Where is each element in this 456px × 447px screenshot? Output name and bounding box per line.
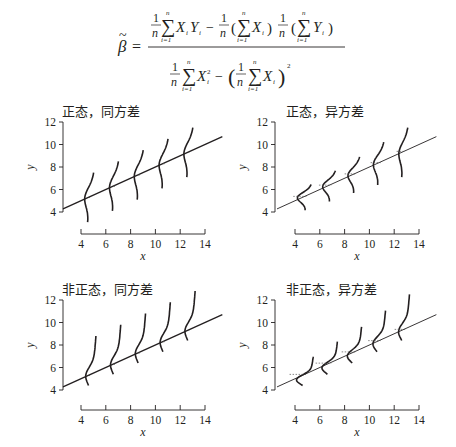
den-X2-sub: i bbox=[273, 78, 275, 86]
density-curve bbox=[297, 184, 311, 210]
density-center-mark bbox=[114, 186, 115, 187]
x-tick-label: 4 bbox=[78, 414, 84, 426]
num-X-sub: i bbox=[186, 29, 188, 37]
density-curve-group bbox=[134, 150, 143, 200]
formula-denominator: 1 n ∑ n i=1 X 2 i − ( 1 n ∑ n i=1 X i ) … bbox=[170, 58, 291, 93]
x-tick-label: 4 bbox=[78, 238, 84, 250]
panel-title: 正态，异方差 bbox=[286, 104, 364, 119]
den-X-sup: 2 bbox=[207, 68, 211, 76]
den-sum1: ∑ bbox=[182, 64, 196, 87]
num-sum2-lower: i=1 bbox=[237, 36, 247, 44]
density-curve bbox=[160, 302, 170, 352]
num-lparen1: ( bbox=[231, 20, 236, 37]
num-sum3: ∑ bbox=[297, 15, 311, 38]
y-tick-label: 10 bbox=[45, 139, 57, 151]
den-frac1-n: n bbox=[171, 75, 177, 89]
x-tick-label: 12 bbox=[388, 238, 400, 250]
panel-title: 正态，同方差 bbox=[62, 104, 140, 119]
num-frac3-one: 1 bbox=[280, 11, 286, 25]
density-center-mark bbox=[188, 330, 189, 331]
panel-title: 非正态，异方差 bbox=[286, 282, 377, 297]
x-tick-label: 12 bbox=[174, 238, 186, 250]
regression-line bbox=[277, 137, 436, 209]
beta-estimator-formula: β ~ = 1 n ∑ n i=1 X i Y i − 1 n ( ∑ n i=… bbox=[0, 0, 456, 100]
num-frac1-one: 1 bbox=[153, 11, 159, 25]
y-tick-label: 12 bbox=[257, 116, 269, 128]
y-axis-label: y bbox=[235, 342, 249, 349]
density-curve bbox=[348, 157, 360, 193]
density-center-mark bbox=[138, 352, 139, 353]
num-sum1-upper: n bbox=[166, 9, 170, 17]
y-tick-label: 6 bbox=[50, 184, 56, 196]
num-X2: X bbox=[251, 19, 262, 35]
panel-title: 非正态，同方差 bbox=[62, 282, 153, 297]
x-tick-label: 6 bbox=[103, 238, 109, 250]
x-tick-label: 6 bbox=[317, 414, 323, 426]
num-sum2-upper: n bbox=[242, 9, 246, 17]
den-sum1-upper: n bbox=[187, 58, 191, 66]
x-tick-label: 4 bbox=[292, 238, 298, 250]
x-tick-label: 8 bbox=[128, 414, 134, 426]
x-tick-label: 8 bbox=[342, 414, 348, 426]
density-curve-group bbox=[184, 128, 193, 178]
y-tick-label: 12 bbox=[45, 294, 57, 306]
y-tick-label: 4 bbox=[50, 206, 56, 218]
density-curve bbox=[323, 171, 336, 202]
density-curve-group bbox=[290, 357, 314, 386]
num-X2-sub: i bbox=[262, 29, 264, 37]
den-lparen: ( bbox=[228, 64, 235, 89]
y-axis-label: y bbox=[235, 164, 249, 171]
panel-normal-heteroscedastic: 正态，异方差4681012y468101214x bbox=[228, 100, 456, 280]
formula-numerator: 1 n ∑ n i=1 X i Y i − 1 n ( ∑ n i=1 X i … bbox=[151, 9, 333, 44]
regression-line bbox=[63, 137, 222, 209]
density-center-mark bbox=[89, 197, 90, 198]
density-curve bbox=[135, 314, 145, 364]
density-curve-group bbox=[110, 161, 119, 211]
y-tick-label: 8 bbox=[50, 161, 56, 173]
num-frac2-one: 1 bbox=[221, 11, 227, 25]
density-curve-group bbox=[395, 294, 410, 340]
panel-nonnormal-homoscedastic: 非正态，同方差4681012y468101214x bbox=[0, 280, 228, 447]
num-sum1: ∑ bbox=[161, 15, 175, 38]
density-curve bbox=[322, 342, 338, 375]
x-tick-label: 10 bbox=[364, 414, 376, 426]
num-sum3-lower: i=1 bbox=[297, 36, 307, 44]
density-curve-group bbox=[368, 311, 385, 352]
y-tick-label: 8 bbox=[50, 339, 56, 351]
density-curve bbox=[399, 294, 410, 340]
density-curve-group bbox=[111, 325, 121, 375]
x-axis-label: x bbox=[139, 425, 146, 439]
num-rparen1: ) bbox=[267, 20, 272, 37]
density-curve-group bbox=[316, 342, 338, 375]
num-sum1-lower: i=1 bbox=[161, 36, 171, 44]
den-minus: − bbox=[215, 69, 223, 84]
num-lparen2: ( bbox=[291, 20, 296, 37]
x-tick-label: 10 bbox=[150, 238, 162, 250]
y-tick-label: 8 bbox=[262, 161, 268, 173]
den-frac2-one: 1 bbox=[238, 60, 244, 74]
num-Y2-sub: i bbox=[322, 29, 324, 37]
den-frac1-one: 1 bbox=[172, 60, 178, 74]
den-sum2-lower: i=1 bbox=[248, 85, 258, 93]
y-tick-label: 12 bbox=[257, 294, 269, 306]
density-curve bbox=[399, 128, 408, 178]
den-rparen-sup: 2 bbox=[287, 62, 291, 70]
density-center-mark bbox=[89, 375, 90, 376]
y-tick-label: 8 bbox=[262, 339, 268, 351]
num-sum3-upper: n bbox=[302, 9, 306, 17]
density-curve bbox=[347, 327, 361, 363]
panel-nonnormal-heteroscedastic: 非正态，异方差4681012y468101214x bbox=[228, 280, 456, 447]
den-X: X bbox=[196, 68, 207, 84]
den-rparen: ) bbox=[278, 64, 285, 89]
x-axis-label: x bbox=[353, 249, 360, 263]
den-X2: X bbox=[262, 68, 273, 84]
x-tick-label: 8 bbox=[128, 238, 134, 250]
regression-line bbox=[63, 315, 222, 387]
y-tick-label: 4 bbox=[262, 206, 268, 218]
x-tick-label: 12 bbox=[388, 414, 400, 426]
density-center-mark bbox=[163, 163, 164, 164]
density-curve bbox=[185, 291, 195, 341]
density-curve-group bbox=[86, 336, 96, 386]
density-curve bbox=[373, 142, 383, 185]
x-axis-label: x bbox=[139, 249, 146, 263]
